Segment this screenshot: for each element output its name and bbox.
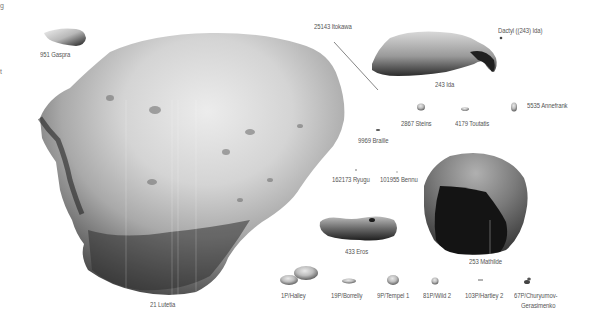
label-hartley2: 103P/Hartley 2 [465, 292, 503, 300]
label-annefrank: 5535 Annefrank [527, 102, 568, 110]
label-braille: 9969 Braille [358, 137, 388, 145]
label-gaspra: 951 Gaspra [40, 51, 70, 59]
label-itokawa: 25143 Itokawa [314, 23, 352, 31]
label-wild2: 81P/Wild 2 [423, 292, 451, 300]
cg-body [524, 277, 531, 284]
steins-body [417, 104, 425, 111]
label-cg-line1: 67P/Churyumov- [514, 292, 557, 300]
label-mathilde: 253 Mathilde [469, 258, 502, 266]
label-cg-line2: Gerasimenko [521, 302, 555, 310]
label-toutatis: 4179 Toutatis [455, 120, 489, 128]
eros-body [320, 216, 397, 240]
ryugu-body [355, 169, 357, 171]
annefrank-body [511, 103, 517, 112]
dactyl-body [500, 37, 503, 40]
gaspra-body [44, 29, 86, 47]
label-steins: 2867 Steins [401, 120, 431, 128]
braille-body [376, 129, 380, 131]
label-tempel1: 9P/Tempel 1 [377, 292, 409, 300]
toutatis-body [461, 107, 469, 111]
tempel1-body [387, 275, 399, 285]
edge-text-fragment: t [0, 68, 2, 76]
lutetia-body [40, 33, 344, 295]
asteroid-comet-comparison-figure: g t 951 Gaspra 25143 Itokawa Dactyl ((24… [0, 0, 594, 324]
borrelly-body [342, 279, 356, 284]
bennu-body [396, 171, 397, 172]
label-borrelly: 19P/Borrelly [331, 292, 362, 300]
label-dactyl: Dactyl ((243) Ida) [498, 27, 542, 35]
label-ryugu: 162173 Ryugu [332, 176, 370, 184]
itokawa-pointer-line [334, 42, 378, 90]
mathilde-body [424, 153, 528, 255]
label-halley: 1P/Halley [281, 292, 306, 300]
wild2-body [432, 278, 439, 285]
bodies-illustration [0, 0, 594, 324]
label-lutetia: 21 Lutetia [150, 301, 175, 309]
edge-text-fragment: g [0, 2, 4, 10]
label-eros: 433 Eros [345, 248, 368, 256]
label-ida: 243 Ida [435, 81, 454, 89]
halley-body [280, 266, 318, 285]
label-bennu: 101955 Bennu [380, 176, 418, 184]
ida-body [372, 32, 497, 76]
